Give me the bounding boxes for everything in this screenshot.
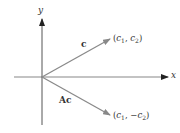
reflection-diagram: y x c Ac (c1, c2) (c1, −c2): [0, 0, 180, 133]
y-axis-label: y: [38, 6, 43, 15]
diagram-canvas: [0, 0, 180, 133]
vector-c-arrow: [42, 39, 110, 77]
vector-ac-arrow: [42, 77, 110, 115]
x-axis-label: x: [171, 71, 176, 80]
vector-c-label: c: [81, 40, 86, 49]
vector-ac-label: Ac: [59, 96, 71, 105]
point-ac-label: (c1, −c2): [113, 111, 149, 121]
point-c-label: (c1, c2): [113, 34, 142, 44]
